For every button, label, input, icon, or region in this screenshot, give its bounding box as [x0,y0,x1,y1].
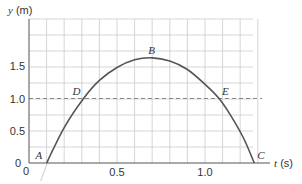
y-tick-label: 0.5 [10,125,25,137]
y-axis-label: y (m) [7,4,32,16]
point-label-b: B [148,44,155,56]
point-label-d: D [72,85,81,97]
x-tick-label: 0.5 [109,166,124,178]
y-tick-label: 1.5 [10,60,25,72]
y-tick-label: 0 [15,157,21,169]
trajectory-chart: 0.51.0000.51.01.5 ABCDE y (m) t (s) [0,0,302,184]
point-labels: ABCDE [35,44,266,161]
point-label-c: C [257,149,265,161]
y-tick-label: 1.0 [10,93,25,105]
x-tick-label: 0 [23,165,29,177]
x-axis-label: t (s) [274,157,293,169]
x-tick-label: 1.0 [197,166,212,178]
point-label-e: E [221,85,229,97]
point-label-a: A [35,149,43,161]
